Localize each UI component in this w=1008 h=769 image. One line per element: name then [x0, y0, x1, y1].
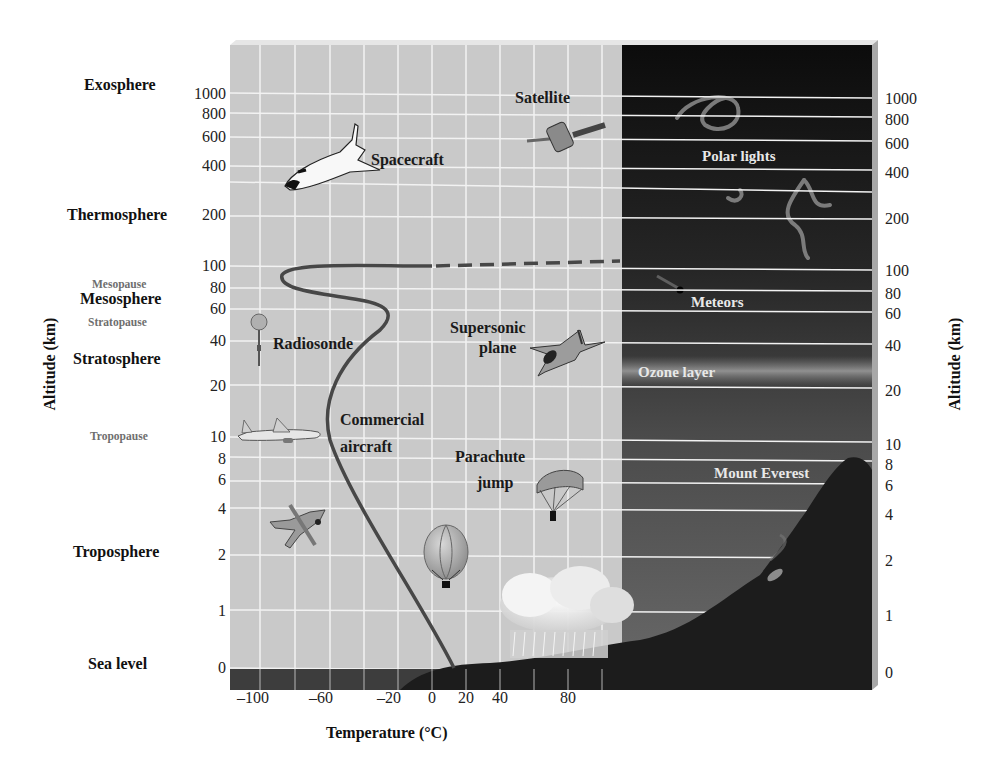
- label-parachute-line1: Parachute: [455, 447, 525, 467]
- label-mount-everest: Mount Everest: [714, 465, 809, 482]
- label-commercial-line1: Commercial: [340, 410, 424, 430]
- atmosphere-diagram: [0, 0, 1008, 769]
- x-tick: –60: [296, 689, 346, 707]
- label-supersonic-line2: plane: [479, 338, 516, 358]
- x-tick: 80: [543, 689, 593, 707]
- x-tick: –100: [228, 689, 278, 707]
- label-meteors: Meteors: [691, 294, 743, 311]
- label-polar-lights: Polar lights: [702, 148, 775, 165]
- label-parachute-line2: jump: [477, 473, 513, 493]
- label-commercial-line2: aircraft: [340, 437, 392, 457]
- label-ozone-layer: Ozone layer: [638, 364, 715, 381]
- label-supersonic-line1: Supersonic: [450, 318, 526, 338]
- x-tick: 40: [475, 689, 525, 707]
- label-radiosonde: Radiosonde: [273, 334, 353, 354]
- frame-bevel-top: [230, 40, 878, 45]
- label-spacecraft: Spacecraft: [371, 150, 444, 170]
- x-axis-title: Temperature (°C): [326, 724, 447, 742]
- frame-bevel-right: [872, 40, 878, 690]
- label-satellite: Satellite: [515, 88, 570, 108]
